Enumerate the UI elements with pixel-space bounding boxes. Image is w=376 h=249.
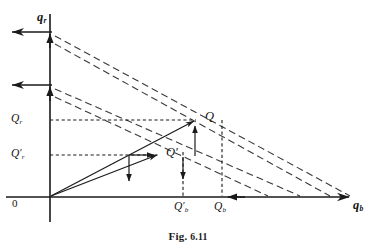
y-tick-label-Qr-subscript: r bbox=[19, 118, 22, 126]
y-tick-label-Qr-prime-subscript: r bbox=[22, 153, 25, 161]
figure-container: qr qb 0 Q Q' Qr Q′r Q′b Qb Fig. 6.11 bbox=[0, 0, 376, 249]
y-tick-label-Qr-prime: Q′r bbox=[11, 148, 25, 161]
y-axis-label: qr bbox=[37, 11, 46, 25]
point-label-Q-prime: Q' bbox=[166, 146, 178, 159]
budget-line-2 bbox=[55, 44, 330, 196]
figure-caption: Fig. 6.11 bbox=[0, 230, 376, 242]
budget-lines-group bbox=[55, 36, 350, 196]
x-tick-label-Qb-subscript: b bbox=[222, 206, 226, 214]
x-tick-label-Qb: Qb bbox=[214, 201, 226, 214]
x-axis-label: qb bbox=[353, 199, 363, 213]
y-axis-label-subscript: r bbox=[43, 16, 46, 25]
x-axis-label-subscript: b bbox=[359, 204, 363, 213]
x-tick-label-Qb-prime: Q′b bbox=[174, 201, 188, 214]
origin-label: 0 bbox=[12, 198, 18, 209]
x-tick-label-Qb-prime-subscript: b bbox=[185, 206, 189, 214]
projection-lines-group bbox=[50, 120, 222, 196]
figure-caption-number: 6.11 bbox=[190, 231, 207, 242]
y-tick-label-Qr: Qr bbox=[11, 113, 22, 126]
point-label-Q: Q bbox=[205, 110, 214, 123]
budget-line-4 bbox=[55, 97, 268, 196]
figure-caption-prefix: Fig. bbox=[169, 230, 188, 242]
budget-line-1 bbox=[55, 36, 350, 196]
ray-origin-to-Q-prime bbox=[51, 155, 157, 196]
adjustment-arrows-group bbox=[129, 126, 195, 181]
